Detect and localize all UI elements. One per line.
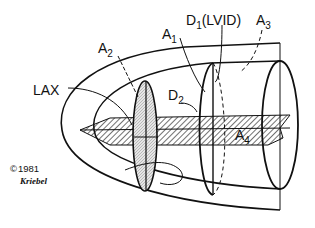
a2-ellipse: [133, 81, 157, 191]
svg-text:©1981: ©1981: [10, 163, 39, 174]
label-lvid: (LVID): [202, 12, 241, 28]
svg-text:A1: A1: [162, 26, 177, 45]
svg-text:D1(LVID): D1(LVID): [186, 12, 241, 31]
svg-text:LAX: LAX: [33, 82, 60, 98]
artist-signature: Kriebel: [19, 176, 47, 186]
svg-text:A3: A3: [256, 12, 271, 31]
svg-text:A2: A2: [98, 40, 113, 59]
copyright-year: 1981: [18, 163, 39, 174]
label-d2: D: [168, 87, 178, 103]
svg-text:D2: D2: [168, 87, 184, 106]
copyright-symbol: ©: [10, 163, 17, 174]
lv-model-diagram: LAX A2 A1 D1(LVID) A3 D2 A4 ©1981 Kriebe…: [0, 0, 315, 228]
label-d1: D: [186, 12, 196, 28]
label-lax: LAX: [33, 82, 60, 98]
